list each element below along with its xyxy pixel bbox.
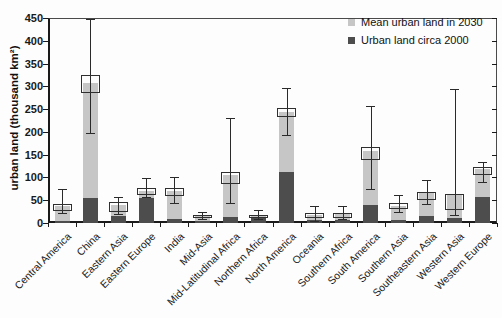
y-tick-mark-right xyxy=(492,64,497,65)
error-bar-cap-top-6 xyxy=(226,118,235,119)
bar-2000-3 xyxy=(139,198,154,223)
error-bar-cap-bottom-10 xyxy=(338,219,347,220)
error-bar-cap-bottom-3 xyxy=(142,197,151,198)
error-bar-cap-top-1 xyxy=(86,19,95,20)
percentile-box-4 xyxy=(165,188,184,196)
error-bar-cap-bottom-5 xyxy=(198,219,207,220)
x-tick-mark xyxy=(413,223,414,227)
y-tick-mark xyxy=(43,64,48,65)
x-tick-mark xyxy=(385,223,386,227)
y-tick-label: 150 xyxy=(3,149,43,161)
bar-2000-10 xyxy=(335,220,350,223)
y-tick-mark-right xyxy=(492,41,497,42)
error-bar-cap-top-13 xyxy=(422,180,431,181)
error-bar-cap-top-11 xyxy=(366,106,375,107)
percentile-box-0 xyxy=(53,204,72,211)
y-tick-mark xyxy=(43,132,48,133)
y-tick-label: 450 xyxy=(3,12,43,24)
error-bar-cap-bottom-8 xyxy=(282,135,291,136)
error-bar-cap-top-7 xyxy=(254,210,263,211)
percentile-box-2 xyxy=(109,202,128,212)
error-bar-6 xyxy=(230,118,231,204)
bar-2000-8 xyxy=(279,172,294,223)
percentile-box-3 xyxy=(137,188,156,194)
x-tick-mark xyxy=(132,223,133,227)
x-tick-mark xyxy=(357,223,358,227)
y-tick-mark-right xyxy=(492,200,497,201)
y-tick-label: 50 xyxy=(3,194,43,206)
x-tick-mark xyxy=(104,223,105,227)
error-bar-cap-bottom-7 xyxy=(254,219,263,220)
y-tick-label: 400 xyxy=(3,35,43,47)
x-tick-mark xyxy=(497,223,498,227)
y-tick-mark xyxy=(43,109,48,110)
error-bar-cap-top-8 xyxy=(282,88,291,89)
y-tick-mark xyxy=(43,86,48,87)
error-bar-cap-top-10 xyxy=(338,206,347,207)
y-tick-mark-right xyxy=(492,109,497,110)
bar-2000-4 xyxy=(167,219,182,223)
y-tick-mark xyxy=(43,177,48,178)
error-bar-cap-bottom-12 xyxy=(394,212,403,213)
error-bar-cap-bottom-2 xyxy=(114,214,123,215)
y-tick-label: 350 xyxy=(3,58,43,70)
error-bar-cap-top-15 xyxy=(478,162,487,163)
legend: Mean urban land in 2030 Urban land circa… xyxy=(348,16,483,52)
y-tick-mark xyxy=(43,41,48,42)
percentile-box-6 xyxy=(221,172,240,184)
bar-2000-14 xyxy=(447,218,462,223)
legend-swatch-2000 xyxy=(348,37,355,44)
y-tick-mark-right xyxy=(492,18,497,19)
bar-2000-6 xyxy=(223,217,238,223)
y-tick-mark xyxy=(43,200,48,201)
x-tick-mark xyxy=(160,223,161,227)
x-label-0: Central America xyxy=(12,230,73,291)
x-label-4: India xyxy=(161,230,186,255)
legend-label-2000: Urban land circa 2000 xyxy=(361,34,469,46)
error-bar-cap-bottom-9 xyxy=(310,221,319,222)
y-tick-mark-right xyxy=(492,177,497,178)
y-tick-mark xyxy=(43,18,48,19)
x-tick-mark xyxy=(76,223,77,227)
x-tick-mark xyxy=(301,223,302,227)
x-tick-mark xyxy=(329,223,330,227)
percentile-box-8 xyxy=(277,108,296,117)
y-tick-mark xyxy=(43,155,48,156)
bar-2000-5 xyxy=(195,221,210,223)
percentile-box-10 xyxy=(333,213,352,218)
percentile-box-13 xyxy=(417,192,436,201)
error-bar-cap-bottom-6 xyxy=(226,203,235,204)
error-bar-cap-bottom-14 xyxy=(450,215,459,216)
error-bar-cap-bottom-13 xyxy=(422,204,431,205)
error-bar-cap-top-2 xyxy=(114,197,123,198)
error-bar-cap-bottom-0 xyxy=(58,213,67,214)
percentile-box-9 xyxy=(305,213,324,218)
x-tick-mark xyxy=(244,223,245,227)
error-bar-cap-bottom-1 xyxy=(86,133,95,134)
legend-swatch-2030 xyxy=(348,19,355,26)
y-tick-label: 0 xyxy=(3,217,43,229)
bar-2000-0 xyxy=(55,221,70,223)
y-tick-label: 300 xyxy=(3,80,43,92)
error-bar-cap-bottom-11 xyxy=(366,189,375,190)
bar-2000-11 xyxy=(363,205,378,223)
x-tick-mark xyxy=(48,223,49,227)
y-tick-label: 200 xyxy=(3,126,43,138)
percentile-box-1 xyxy=(81,75,100,93)
error-bar-cap-top-4 xyxy=(170,177,179,178)
bar-2000-2 xyxy=(111,216,126,223)
error-bar-cap-top-12 xyxy=(394,195,403,196)
error-bar-cap-top-14 xyxy=(450,89,459,90)
error-bar-cap-top-0 xyxy=(58,189,67,190)
bar-2000-12 xyxy=(391,220,406,223)
y-tick-mark-right xyxy=(492,132,497,133)
percentile-box-15 xyxy=(473,167,492,176)
y-tick-label: 100 xyxy=(3,171,43,183)
error-bar-cap-bottom-4 xyxy=(170,203,179,204)
y-tick-mark-right xyxy=(492,155,497,156)
percentile-box-7 xyxy=(249,215,268,218)
percentile-box-11 xyxy=(361,147,380,160)
x-tick-mark xyxy=(216,223,217,227)
bar-2000-13 xyxy=(419,216,434,223)
error-bar-cap-bottom-15 xyxy=(478,182,487,183)
